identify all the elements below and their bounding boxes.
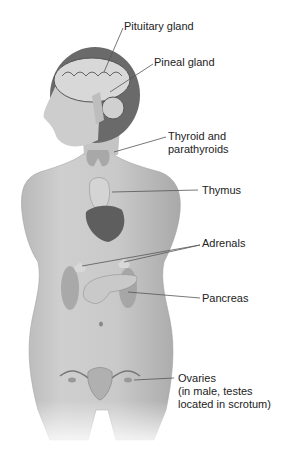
cerebellum: [102, 97, 124, 119]
label-thyroid-line1: Thyroid and: [168, 130, 226, 143]
label-ovaries-line1: Ovaries: [178, 372, 216, 385]
brain: [54, 58, 130, 102]
label-pituitary: Pituitary gland: [124, 20, 194, 33]
label-pineal: Pineal gland: [154, 56, 215, 69]
label-pancreas: Pancreas: [202, 292, 248, 305]
body-illustration: [0, 0, 282, 450]
ovary-left: [68, 378, 76, 383]
kidney-left: [61, 266, 79, 310]
label-adrenals: Adrenals: [202, 237, 245, 250]
label-ovaries-line3: located in scrotum): [178, 398, 271, 411]
label-thyroid-line2: parathyroids: [168, 143, 229, 156]
label-thymus: Thymus: [202, 184, 241, 197]
ovary-right: [124, 378, 132, 383]
endocrine-diagram: Pituitary gland Pineal gland Thyroid and…: [0, 0, 282, 450]
label-ovaries-line2: (in male, testes: [178, 385, 253, 398]
